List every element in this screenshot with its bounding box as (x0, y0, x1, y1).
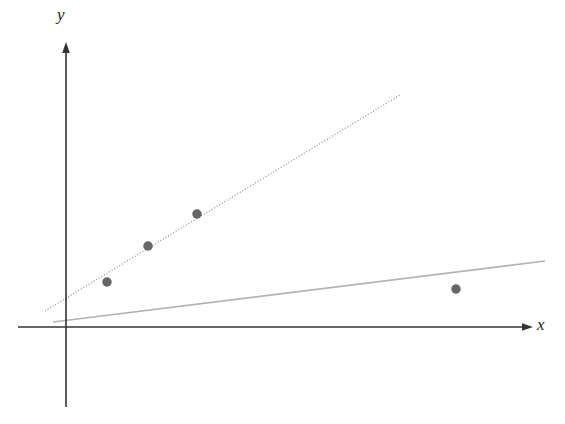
scatter-plot-figure: y x (0, 0, 565, 424)
x-axis-arrowhead (522, 323, 533, 330)
data-point (451, 284, 461, 294)
y-axis-arrowhead (62, 42, 70, 53)
data-point (143, 241, 153, 251)
dotted-regression-line (45, 95, 400, 311)
data-point (102, 277, 112, 287)
data-point-group (102, 209, 461, 294)
plot-canvas (0, 0, 565, 424)
x-axis-label: x (537, 316, 545, 333)
solid-regression-line (53, 261, 545, 322)
y-axis (62, 42, 70, 407)
y-axis-label: y (57, 6, 65, 23)
data-point (192, 209, 202, 219)
x-axis (18, 323, 533, 330)
